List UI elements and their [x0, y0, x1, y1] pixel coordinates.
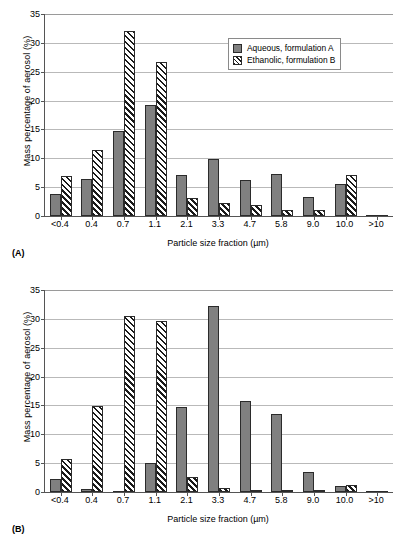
bar [240, 401, 251, 492]
bar [282, 490, 293, 492]
panel-b: Mass percentage of aerosol (%) 051015202… [0, 276, 404, 551]
bar-group [45, 290, 77, 492]
x-axis-tick-label: 5.8 [265, 220, 297, 229]
bar [303, 472, 314, 492]
bar [346, 485, 357, 492]
bar-group [140, 14, 172, 216]
legend-item: Aqueous, formulation A [233, 42, 335, 54]
bar-group [172, 14, 204, 216]
x-axis-tick-label: 0.4 [76, 496, 108, 505]
x-axis-tick-label: 5.8 [265, 496, 297, 505]
bar [81, 179, 92, 216]
legend-item: Ethanolic, formulation B [233, 54, 335, 66]
legend-swatch-hatched-icon [233, 56, 242, 65]
bar [219, 203, 230, 216]
legend-a: Aqueous, formulation AEthanolic, formula… [228, 38, 341, 70]
panel-label-a: (A) [12, 248, 25, 258]
bar [50, 479, 61, 492]
bar [61, 176, 72, 216]
panel-label-b: (B) [12, 524, 25, 534]
bar [124, 31, 135, 216]
bar [377, 491, 388, 492]
x-axis-tick-label: 3.3 [202, 220, 234, 229]
bar [271, 174, 282, 216]
bar [61, 459, 72, 492]
bar [366, 215, 377, 216]
bar [208, 159, 219, 216]
bar-group [77, 14, 109, 216]
x-axis-tick-label: 10.0 [329, 496, 361, 505]
bar [124, 316, 135, 492]
x-axis-tick-labels-a: <0.40.40.71.12.13.34.75.89.010.0>10 [44, 220, 392, 229]
x-axis-tick-labels-b: <0.40.40.71.12.13.34.75.89.010.0>10 [44, 496, 392, 505]
bar [156, 321, 167, 492]
bar [282, 210, 293, 216]
bar [377, 215, 388, 216]
bar [335, 486, 346, 492]
bar [219, 488, 230, 492]
bar [314, 490, 325, 492]
x-axis-tick-label: 9.0 [297, 220, 329, 229]
bar-group [140, 290, 172, 492]
bar-group [298, 290, 330, 492]
x-axis-tick-label: 2.1 [171, 220, 203, 229]
bar [145, 105, 156, 216]
legend-label: Aqueous, formulation A [247, 42, 334, 54]
y-axis-tick-mark [41, 492, 45, 493]
bar-group [330, 290, 362, 492]
panel-a: Mass percentage of aerosol (%) 051015202… [0, 0, 404, 276]
x-axis-tick-label: 0.4 [76, 220, 108, 229]
bar [251, 205, 262, 216]
bar-group [45, 14, 77, 216]
x-axis-tick-label: 4.7 [234, 220, 266, 229]
x-axis-tick-label: >10 [360, 496, 392, 505]
bar [113, 491, 124, 492]
x-axis-tick-label: 9.0 [297, 496, 329, 505]
plot-area-b: 05101520253035 [44, 290, 393, 493]
bar-group [77, 290, 109, 492]
bar [240, 180, 251, 216]
legend-swatch-solid-icon [233, 44, 242, 53]
bar-group [108, 14, 140, 216]
bar-group [108, 290, 140, 492]
bar [92, 150, 103, 216]
bar [303, 197, 314, 216]
bar-group [361, 290, 393, 492]
bar-group [361, 14, 393, 216]
x-axis-title-a: Particle size fraction (µm) [44, 238, 392, 248]
bar [208, 306, 219, 492]
bar [187, 198, 198, 216]
x-axis-tick-label: 1.1 [139, 496, 171, 505]
bar [346, 175, 357, 216]
bar-group [172, 290, 204, 492]
x-axis-tick-label: <0.4 [44, 496, 76, 505]
bar [92, 406, 103, 492]
x-axis-title-b: Particle size fraction (µm) [44, 514, 392, 524]
legend-label: Ethanolic, formulation B [247, 54, 335, 66]
bar [145, 463, 156, 492]
bar [187, 477, 198, 492]
bar [113, 131, 124, 216]
bar [176, 175, 187, 216]
x-axis-tick-label: 3.3 [202, 496, 234, 505]
x-axis-tick-label: 0.7 [107, 220, 139, 229]
bar [335, 184, 346, 216]
bar [50, 194, 61, 216]
bar [81, 489, 92, 492]
x-axis-tick-label: 10.0 [329, 220, 361, 229]
bar-group-container [45, 290, 393, 492]
bar-group [203, 290, 235, 492]
bar-group [235, 290, 267, 492]
y-axis-tick-mark [41, 216, 45, 217]
x-axis-tick-label: 4.7 [234, 496, 266, 505]
bar [251, 490, 262, 492]
bar [314, 210, 325, 216]
x-axis-tick-label: 2.1 [171, 496, 203, 505]
bar [156, 62, 167, 216]
bar [366, 491, 377, 492]
x-axis-tick-label: 1.1 [139, 220, 171, 229]
bar-group [266, 290, 298, 492]
bar [176, 407, 187, 492]
figure-two-panel-bar-charts: Mass percentage of aerosol (%) 051015202… [0, 0, 404, 551]
x-axis-tick-label: >10 [360, 220, 392, 229]
